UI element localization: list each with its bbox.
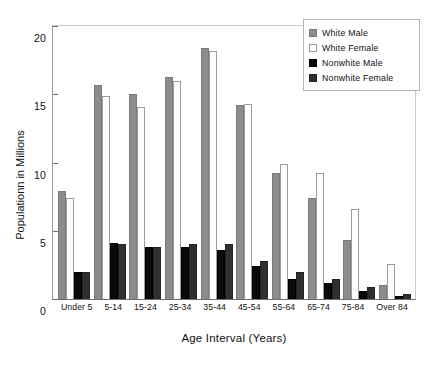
bar — [137, 107, 145, 299]
bar-group — [129, 26, 161, 299]
bar — [94, 85, 102, 299]
bar — [387, 264, 395, 299]
x-axis-tick-labels: Under 55-1415-2425-3435-4445-5455-6465-7… — [52, 302, 416, 318]
legend-label: White Male — [322, 28, 368, 38]
bar — [102, 96, 110, 299]
bar-group — [272, 26, 304, 299]
legend-item[interactable]: Nonwhite Male — [309, 55, 415, 70]
bar — [403, 294, 411, 299]
bar — [280, 164, 288, 299]
x-axis-title: Age Interval (Years) — [52, 332, 416, 344]
y-tick-label: 10 — [34, 169, 53, 181]
bar — [129, 94, 137, 299]
bar — [110, 243, 118, 299]
bar — [379, 285, 387, 299]
x-tick-label: 75-84 — [342, 302, 365, 318]
bar — [189, 244, 197, 299]
bar — [74, 272, 82, 299]
x-tick-label: 65-74 — [307, 302, 330, 318]
legend: White MaleWhite FemaleNonwhite MaleNonwh… — [303, 19, 420, 91]
legend-label: Nonwhite Male — [322, 58, 383, 68]
bar — [343, 240, 351, 299]
x-tick-label: 15-24 — [134, 302, 157, 318]
bar — [296, 272, 304, 299]
bar — [272, 173, 280, 299]
bar-group — [201, 26, 233, 299]
x-tick-label: 45-54 — [238, 302, 261, 318]
y-tick-mark — [53, 299, 58, 300]
bar — [236, 105, 244, 299]
bar — [252, 266, 260, 299]
x-tick-label: Under 5 — [61, 302, 93, 318]
bar — [209, 51, 217, 299]
bar — [351, 209, 359, 299]
bar-chart: Populationn in Millions 05101520 Under 5… — [0, 0, 430, 369]
bar — [359, 291, 367, 299]
bar-group — [236, 26, 268, 299]
bar — [244, 104, 252, 299]
bar — [118, 244, 126, 299]
y-tick-label: 5 — [40, 237, 53, 249]
y-tick-label: 15 — [34, 100, 53, 112]
bar — [153, 247, 161, 299]
x-tick-label: Over 84 — [376, 302, 408, 318]
bar — [324, 283, 332, 299]
legend-label: White Female — [322, 43, 379, 53]
bar — [201, 48, 209, 299]
bar — [225, 244, 233, 299]
bar — [82, 272, 90, 299]
legend-swatch-icon — [309, 29, 317, 37]
bar — [66, 198, 74, 299]
bar — [173, 81, 181, 299]
bar — [395, 296, 403, 299]
x-tick-label: 25-34 — [169, 302, 192, 318]
bar — [145, 247, 153, 299]
bar-group — [165, 26, 197, 299]
legend-swatch-icon — [309, 59, 317, 67]
y-axis-title: Populationn in Millions — [14, 75, 26, 295]
legend-item[interactable]: White Male — [309, 25, 415, 40]
y-tick-label: 20 — [34, 32, 53, 44]
bar — [165, 77, 173, 299]
bar — [260, 261, 268, 299]
bar — [181, 247, 189, 299]
x-tick-label: 55-64 — [273, 302, 296, 318]
x-tick-label: 5-14 — [104, 302, 122, 318]
x-tick-label: 35-44 — [203, 302, 226, 318]
bar — [308, 198, 316, 299]
bar — [332, 279, 340, 299]
legend-item[interactable]: White Female — [309, 40, 415, 55]
bar — [367, 287, 375, 299]
legend-swatch-icon — [309, 74, 317, 82]
bar — [288, 279, 296, 299]
legend-swatch-icon — [309, 44, 317, 52]
bar-group — [94, 26, 126, 299]
legend-label: Nonwhite Female — [322, 73, 393, 83]
bar — [316, 173, 324, 299]
bar — [58, 191, 66, 299]
bar — [217, 250, 225, 299]
bar-group — [58, 26, 90, 299]
legend-item[interactable]: Nonwhite Female — [309, 70, 415, 85]
